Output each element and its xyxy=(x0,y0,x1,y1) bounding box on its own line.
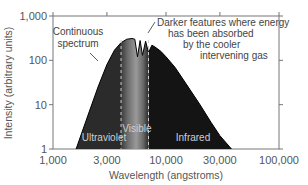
y-axis-title: Intensity (arbitrary units) xyxy=(2,27,14,140)
annotation-arrow-left xyxy=(90,53,98,61)
x-tick-label: 30,000 xyxy=(203,154,237,166)
x-tick-label: 10,000 xyxy=(149,154,183,166)
spectrum-chart: 1,000100101 1,0003,00010,00030,000100,00… xyxy=(0,0,308,185)
band-label-ultraviolet: Ultraviolet xyxy=(82,132,127,143)
x-tick-label: 1,000 xyxy=(39,154,67,166)
x-tick-label: 3,000 xyxy=(93,154,121,166)
band-label-visible: Visible xyxy=(122,123,152,134)
band-label-infrared: Infrared xyxy=(176,132,210,143)
svg-text:has been absorbed: has been absorbed xyxy=(168,28,254,39)
y-tick-label: 10 xyxy=(35,99,47,111)
annotation-arrow-right xyxy=(148,22,155,33)
svg-text:by the cooler: by the cooler xyxy=(183,39,241,50)
annotation-continuous-spectrum: Continuous spectrum xyxy=(53,26,104,61)
x-tick-label: 100,000 xyxy=(259,154,299,166)
y-tick-label: 100 xyxy=(29,54,47,66)
x-axis-title: Wavelength (angstroms) xyxy=(109,169,223,181)
svg-text:spectrum: spectrum xyxy=(57,38,98,49)
y-tick-label: 1,000 xyxy=(19,10,47,22)
svg-text:intervening gas: intervening gas xyxy=(200,50,268,61)
svg-text:Darker features where energy: Darker features where energy xyxy=(157,17,289,28)
annotation-absorption: Darker features where energy has been ab… xyxy=(148,17,289,61)
svg-text:Continuous: Continuous xyxy=(53,26,104,37)
